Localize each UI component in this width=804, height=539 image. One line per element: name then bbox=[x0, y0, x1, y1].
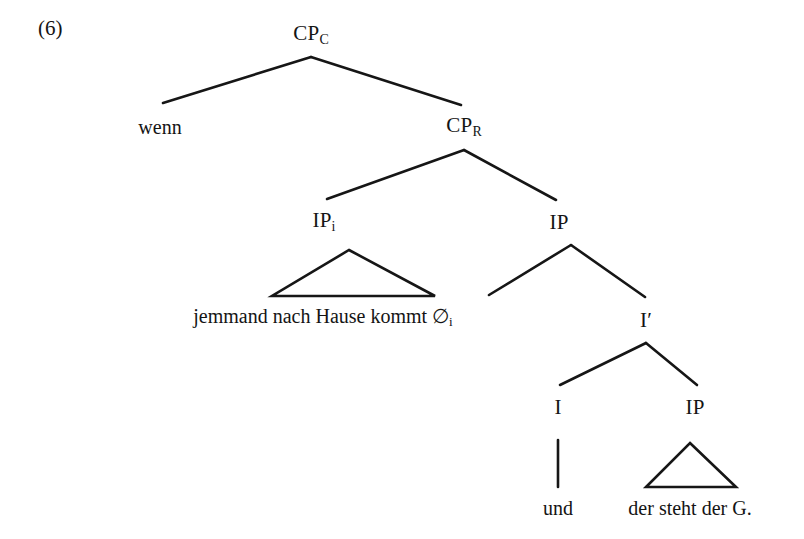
tree-node-ip-right: IP bbox=[549, 212, 568, 233]
tree-branch-cpr-to-ip bbox=[464, 150, 556, 200]
tree-branch-ibar-to-iplow bbox=[646, 343, 697, 385]
tree-node-i-bar: I′ bbox=[640, 310, 652, 331]
tree-terminal-text: jemmand nach Hause kommt ∅ bbox=[193, 305, 449, 327]
tree-branch-cpc-to-cpr bbox=[311, 57, 461, 105]
tree-terminal-text: und bbox=[543, 497, 573, 519]
triangle-ipi bbox=[272, 250, 435, 296]
tree-terminal-der-steht: der steht der G. bbox=[628, 498, 751, 518]
tree-node-cp-r: CPR bbox=[446, 115, 481, 139]
tree-node-label: I′ bbox=[640, 308, 652, 332]
tree-node-label: CP bbox=[446, 113, 472, 137]
triangle-iplow bbox=[646, 443, 736, 487]
tree-node-subscript: i bbox=[332, 219, 336, 234]
tree-branch-cpc-to-wenn bbox=[163, 57, 311, 103]
tree-lines-canvas bbox=[0, 0, 804, 539]
tree-terminal-jemmand: jemmand nach Hause kommt ∅i bbox=[193, 306, 452, 329]
branch-group bbox=[163, 57, 697, 487]
tree-node-subscript: C bbox=[319, 32, 328, 47]
tree-terminal-wenn: wenn bbox=[138, 117, 181, 137]
tree-node-label: CP bbox=[293, 21, 319, 45]
tree-node-ip-low: IP bbox=[685, 397, 704, 418]
tree-terminal-text: der steht der G. bbox=[628, 497, 751, 519]
tree-branch-ip-to-ibar bbox=[571, 245, 645, 297]
tree-node-cp-c: CPC bbox=[293, 23, 328, 47]
syntax-tree-figure: (6) CPCCPRIPiIPI′IIP wennjemmand nach Ha… bbox=[0, 0, 804, 539]
tree-node-subscript: R bbox=[472, 124, 481, 139]
tree-terminal-und: und bbox=[543, 498, 573, 518]
tree-node-label: I bbox=[554, 395, 561, 419]
tree-branch-ibar-to-i bbox=[560, 343, 646, 385]
tree-terminal-subscript: i bbox=[449, 314, 453, 329]
tree-node-ip-i: IPi bbox=[313, 210, 336, 234]
tree-terminal-text: wenn bbox=[138, 116, 181, 138]
tree-branch-ip-to-left bbox=[489, 245, 571, 295]
tree-node-label: IP bbox=[313, 208, 332, 232]
tree-node-label: IP bbox=[549, 210, 568, 234]
tree-node-i-head: I bbox=[554, 397, 561, 418]
tree-node-label: IP bbox=[685, 395, 704, 419]
tree-branch-cpr-to-ipi bbox=[327, 150, 464, 199]
